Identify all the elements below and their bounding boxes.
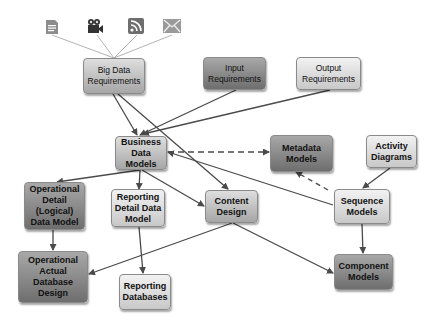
node-label: InputRequirements xyxy=(208,63,261,85)
node-operational-detail-data-model[interactable]: OperationalDetail(Logical)Data Model xyxy=(24,182,85,230)
node-big-data-requirements[interactable]: Big DataRequirements xyxy=(83,58,145,94)
node-label: ReportingDetail DataModel xyxy=(115,192,162,225)
email-icon xyxy=(163,19,181,33)
rss-feed-icon xyxy=(128,18,144,34)
node-sequence-models[interactable]: SequenceModels xyxy=(334,189,390,224)
node-reporting-databases[interactable]: ReportingDatabases xyxy=(119,274,171,310)
document-icon xyxy=(44,19,60,35)
node-operational-actual-database-design[interactable]: OperationalActualDatabaseDesign xyxy=(18,251,88,303)
node-input-requirements[interactable]: InputRequirements xyxy=(203,57,266,90)
node-label: ReportingDatabases xyxy=(122,281,167,303)
node-label: ActivityDiagrams xyxy=(371,141,412,163)
node-label: OperationalActualDatabaseDesign xyxy=(28,255,78,299)
node-content-design[interactable]: ContentDesign xyxy=(205,190,258,223)
node-label: OutputRequirements xyxy=(302,63,355,85)
node-label: BusinessDataModels xyxy=(121,137,161,170)
node-label: MetadataModels xyxy=(282,143,321,165)
node-metadata-models[interactable]: MetadataModels xyxy=(270,135,333,172)
node-label: OperationalDetail(Logical)Data Model xyxy=(29,184,79,228)
node-label: Big DataRequirements xyxy=(88,65,141,87)
node-business-data-models[interactable]: BusinessDataModels xyxy=(115,136,167,170)
node-output-requirements[interactable]: OutputRequirements xyxy=(296,57,361,90)
node-component-models[interactable]: ComponentModels xyxy=(334,254,393,290)
node-label: ContentDesign xyxy=(215,196,249,218)
node-reporting-detail-data-model[interactable]: ReportingDetail DataModel xyxy=(111,189,165,227)
node-label: SequenceModels xyxy=(341,196,384,218)
node-label: ComponentModels xyxy=(339,261,389,283)
node-activity-diagrams[interactable]: ActivityDiagrams xyxy=(366,135,417,168)
video-camera-icon xyxy=(86,17,104,35)
